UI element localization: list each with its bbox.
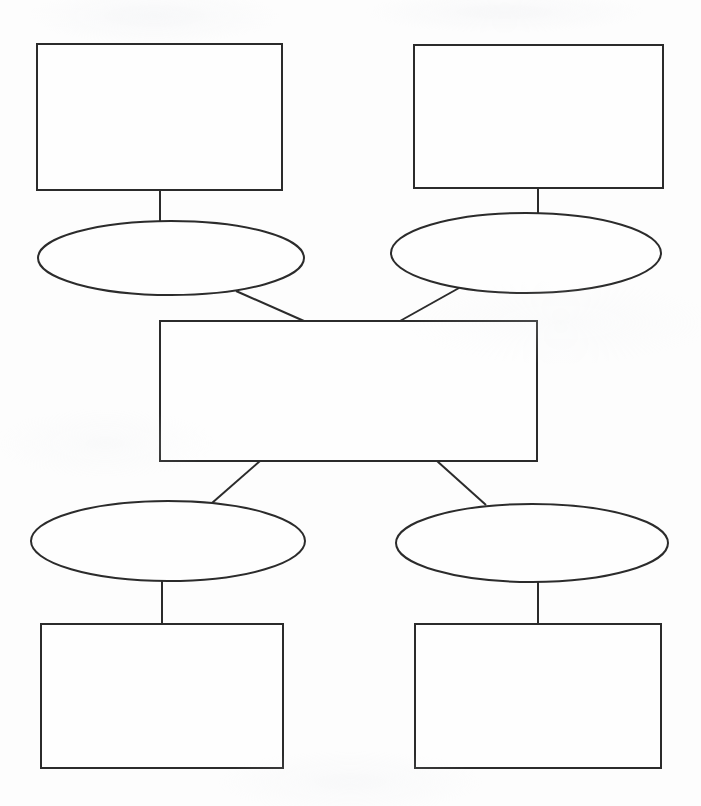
- concept-map-diagram: [0, 0, 701, 806]
- bottom-left-box[interactable]: [41, 624, 283, 768]
- bottom-left-box-outline[interactable]: [41, 624, 283, 768]
- bottom-right-box[interactable]: [415, 624, 661, 768]
- top-left-box-outline[interactable]: [37, 44, 282, 190]
- diagram-canvas: [0, 0, 701, 806]
- bottom-left-ellipse[interactable]: [31, 501, 305, 581]
- bottom-right-ellipse[interactable]: [396, 504, 668, 582]
- connector-top-right-ellipse-to-center-box: [400, 288, 459, 321]
- top-right-ellipse-outline[interactable]: [391, 213, 661, 293]
- bottom-right-ellipse-outline[interactable]: [396, 504, 668, 582]
- top-left-ellipse[interactable]: [38, 221, 304, 295]
- connector-top-left-ellipse-to-center-box: [236, 291, 304, 321]
- bottom-left-ellipse-outline[interactable]: [31, 501, 305, 581]
- connector-center-box-to-bottom-right-ellipse: [437, 461, 486, 505]
- center-box-outline[interactable]: [160, 321, 537, 461]
- top-right-ellipse[interactable]: [391, 213, 661, 293]
- top-left-ellipse-outline[interactable]: [38, 221, 304, 295]
- nodes-layer: [31, 44, 668, 768]
- top-right-box[interactable]: [414, 45, 663, 188]
- connector-center-box-to-bottom-left-ellipse: [212, 461, 260, 503]
- center-box[interactable]: [160, 321, 537, 461]
- bottom-right-box-outline[interactable]: [415, 624, 661, 768]
- top-left-box[interactable]: [37, 44, 282, 190]
- top-right-box-outline[interactable]: [414, 45, 663, 188]
